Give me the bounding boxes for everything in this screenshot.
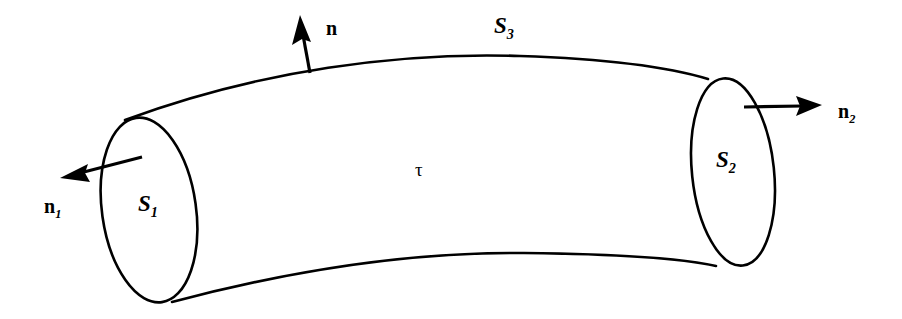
label-normal-n2-symbol: n bbox=[838, 100, 849, 122]
label-normal-n1-subscript: 1 bbox=[55, 207, 61, 221]
label-surface-s3-subscript: 3 bbox=[507, 26, 514, 42]
label-surface-s3-symbol: S bbox=[494, 13, 507, 38]
label-surface-s2-symbol: S bbox=[716, 147, 729, 172]
label-surface-s2: S2 bbox=[716, 148, 736, 175]
label-normal-n1-symbol: n bbox=[44, 195, 55, 217]
control-volume-figure: n n1 n2 S3 S1 S2 τ bbox=[0, 0, 902, 319]
label-normal-n1: n1 bbox=[44, 196, 61, 220]
label-normal-n: n bbox=[326, 18, 337, 42]
label-normal-n2: n2 bbox=[838, 101, 855, 125]
label-surface-s3: S3 bbox=[494, 14, 514, 41]
label-surface-s1-subscript: 1 bbox=[151, 204, 158, 220]
label-surface-s2-subscript: 2 bbox=[729, 160, 736, 176]
label-volume-tau: τ bbox=[415, 160, 423, 179]
label-normal-n2-subscript: 2 bbox=[849, 112, 855, 126]
label-surface-s1: S1 bbox=[138, 192, 158, 219]
label-surface-s1-symbol: S bbox=[138, 191, 151, 216]
figure-canvas bbox=[0, 0, 902, 319]
normal-vector-n-arrow bbox=[292, 15, 311, 73]
label-normal-n-symbol: n bbox=[326, 17, 337, 39]
label-volume-tau-symbol: τ bbox=[415, 159, 423, 180]
